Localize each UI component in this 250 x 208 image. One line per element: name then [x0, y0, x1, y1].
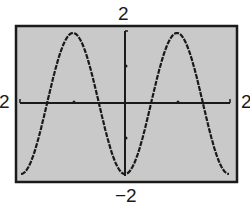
graph-screen	[0, 0, 250, 208]
